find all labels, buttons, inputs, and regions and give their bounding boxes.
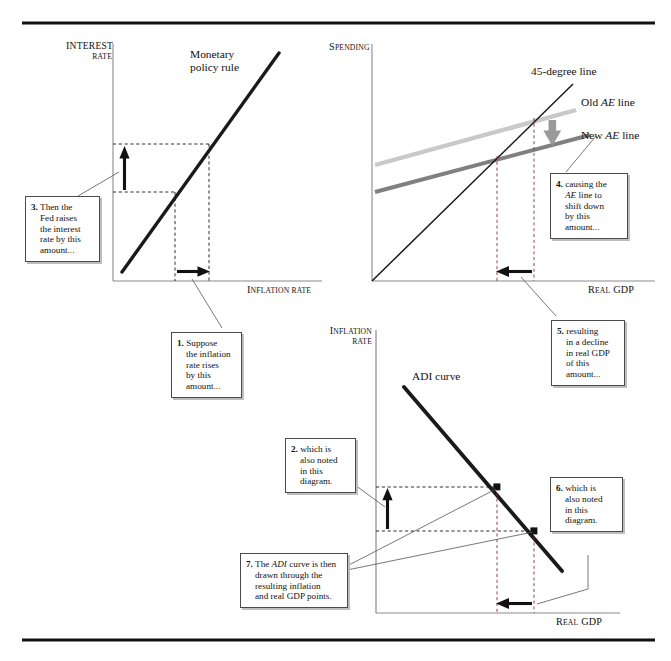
forty-five-degree-label: 45-degree line [531,65,596,78]
callout-line: also noted [291,455,349,466]
callout-line: 2. which is [291,444,349,455]
monetary-policy-rule-line [122,53,279,272]
inflation-rate-axis-label: INFLATION RATE [247,284,311,295]
callout-2-also-noted[interactable]: 2. which isalso notedin thisdiagram. [285,438,356,493]
leader-callout-7b [347,532,533,570]
old-ae-line-label: Old AE line [581,96,635,109]
adi-left-arrow [496,598,532,609]
callout-step-number: 6. [556,483,563,493]
leader-callout-1 [192,279,222,328]
gdp-left-arrow [496,266,532,277]
callout-line: the inflation [177,349,235,360]
interest-rate-axis-label: INTEREST RATE [66,40,112,61]
callout-line: 5. resulting [557,326,618,337]
callout-step-number: 5. [557,326,564,336]
callout-line: in this [556,505,616,516]
leader-callout-6 [537,555,588,604]
monetary-policy-rule-label: Monetary policy rule [190,48,239,74]
leader-callout-5 [521,277,556,316]
callout-line: diagram. [556,515,616,526]
callout-6-also-noted[interactable]: 6. which isalso notedin thisdiagram. [550,477,623,532]
callout-line: of this [557,358,618,369]
adi-curve-line [404,387,562,571]
callout-line: 4. causing the [556,179,621,190]
callout-1-inflation-rises[interactable]: 1. Supposethe inflationrate risesby this… [171,332,242,398]
callout-line: 1. Suppose [177,338,235,349]
callout-line: amount... [557,369,618,380]
callout-line: 3. Then the [31,202,93,213]
callout-step-number: 1. [177,338,184,348]
callout-emphasis: ADI [272,559,287,569]
callout-step-number: 7. [246,559,253,569]
callout-line: AE line to [556,190,621,201]
callout-step-number: 3. [31,202,38,212]
callout-line: 6. which is [556,483,616,494]
adi-point-old [530,527,537,534]
callout-line: also noted [556,494,616,505]
spending-realgdp-axis-label: REAL GDP [588,284,634,295]
callout-line: diagram. [291,476,349,487]
callout-3-fed-raises-rate[interactable]: 3. Then theFed raisesthe interestrate by… [25,196,100,262]
callout-line: and real GDP points. [246,591,341,602]
adi-up-arrow [382,488,392,529]
callout-line: amount... [556,222,621,233]
callout-line: resulting inflation [246,581,341,592]
callout-7-adi-drawn-through[interactable]: 7. The ADI curve is thendrawn through th… [240,553,348,608]
adi-inflation-axis-label-line2: RATE [322,337,372,346]
interest-up-arrow [119,146,129,190]
callout-step-number: 2. [291,444,298,454]
figure-canvas: INTEREST RATE INFLATION RATE SPENDING RE… [0,0,671,661]
callout-line: rate rises [177,360,235,371]
callout-line: 7. The ADI curve is then [246,559,341,570]
adi-curve-label: ADI curve [412,370,460,383]
callout-line: in this [291,466,349,477]
inflation-right-arrow [177,266,210,276]
callout-step-number: 4. [556,179,563,189]
callout-line: amount... [177,381,235,392]
adi-realgdp-axis-label: REAL GDP [556,616,602,627]
callout-line: by this [177,370,235,381]
callout-5-real-gdp-decline[interactable]: 5. resultingin a declinein real GDPof th… [551,320,625,386]
adi-inflation-axis-label: INFLATION RATE [322,325,372,346]
spending-axis-label: SPENDING [329,41,370,52]
callout-line: in real GDP [557,348,618,359]
callout-emphasis: AE [565,190,576,200]
forty-five-degree-line [372,84,573,281]
interest-rate-axis-label-line2: RATE [66,52,112,61]
callout-line: shift down [556,201,621,212]
callout-line: by this [556,211,621,222]
callout-line: amount... [31,245,93,256]
old-ae-line [375,110,576,165]
callout-line: the interest [31,224,93,235]
new-ae-line-label: New AE line [581,129,639,142]
callout-line: drawn through the [246,570,341,581]
leader-callout-2 [355,485,385,507]
callout-line: in a decline [557,337,618,348]
callout-line: Fed raises [31,213,93,224]
callout-line: rate by this [31,234,93,245]
adi-point-new [493,483,500,490]
callout-4-ae-shifts-down[interactable]: 4. causing theAE line toshift downby thi… [550,173,628,239]
